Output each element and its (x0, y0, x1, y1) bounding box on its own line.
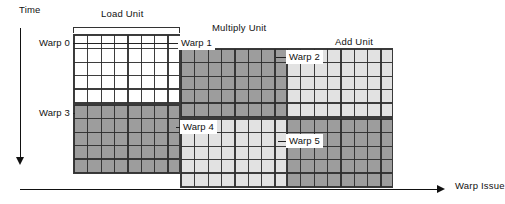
x-axis-label: Warp Issue (455, 180, 505, 191)
warp-label-warp5[interactable]: Warp 5 (278, 134, 323, 148)
warp-label-warp3-text: Warp 3 (36, 106, 73, 120)
warp-label-warp3[interactable]: Warp 3 (36, 106, 75, 120)
leader-line-warp1-left (168, 43, 178, 44)
warp-label-warp0[interactable]: Warp 0 (36, 36, 172, 50)
warp-label-warp4[interactable]: Warp 4 (176, 120, 217, 134)
time-axis-line (20, 28, 21, 160)
warp-label-warp4-text: Warp 4 (180, 120, 217, 134)
y-axis-label: Time (19, 4, 41, 15)
band-warp5[interactable] (286, 118, 393, 189)
leader-line-warp2-left (276, 57, 286, 58)
warp-label-warp0-text: Warp 0 (36, 36, 73, 50)
band-warp3[interactable] (73, 104, 180, 175)
warp-label-warp2[interactable]: Warp 2 (276, 50, 323, 64)
leader-line-warp5-left (278, 141, 286, 142)
leader-line-warp0 (73, 43, 172, 44)
warp-issue-axis-arrowhead (437, 185, 445, 193)
unit-title-add: Add Unit (335, 36, 373, 47)
warp-label-warp1[interactable]: Warp 1 (168, 36, 215, 50)
band-warp1[interactable] (180, 48, 287, 119)
unit-title-load: Load Unit (101, 8, 143, 19)
warp-issue-axis-line (20, 189, 440, 190)
load-unit-bracket (73, 27, 180, 33)
warp-label-warp5-text: Warp 5 (286, 134, 323, 148)
warp-label-warp2-text: Warp 2 (286, 50, 323, 64)
warp-label-warp1-text: Warp 1 (178, 36, 215, 50)
time-axis-arrowhead (16, 157, 24, 165)
unit-title-multiply: Multiply Unit (212, 22, 266, 33)
leader-line-warp3 (73, 113, 75, 114)
